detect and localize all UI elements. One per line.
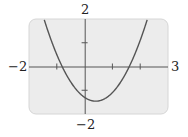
x-min-label: −2 [8, 60, 27, 73]
y-max-label: 2 [81, 3, 89, 16]
y-min-label: −2 [76, 118, 95, 131]
x-max-label: 3 [171, 60, 179, 73]
